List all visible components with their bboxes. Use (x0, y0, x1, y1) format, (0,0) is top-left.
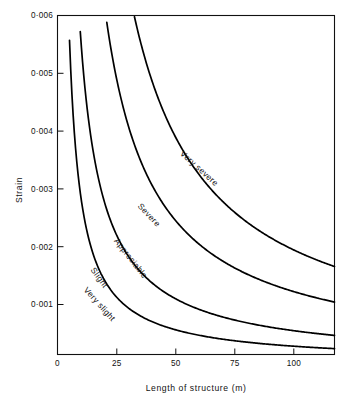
x-tick-label: 100 (287, 359, 302, 368)
x-tick-label: 50 (171, 359, 181, 368)
curve-slight (80, 32, 334, 336)
x-tick-label: 0 (55, 359, 60, 368)
y-axis-tick-labels: 0·006 0·005 0·004 0·003 0·002 0·001 (31, 11, 53, 309)
data-curves (70, 17, 335, 349)
curve-label-very-severe: Very severe (178, 148, 220, 188)
x-axis-title: Length of structure (m) (146, 383, 247, 393)
x-axis-ticks (58, 349, 294, 355)
y-axis-ticks (58, 16, 64, 305)
curve-very-slight (70, 40, 335, 348)
y-axis-title: Strain (14, 177, 24, 203)
x-tick-label: 75 (230, 359, 240, 368)
curve-label-severe: Severe (136, 201, 163, 229)
curve-label-very-slight: Very slight (82, 285, 118, 324)
x-axis-tick-labels: 0 25 50 75 100 (55, 359, 301, 368)
x-tick-label: 25 (112, 359, 122, 368)
y-tick-label: 0·002 (31, 243, 53, 252)
y-tick-label: 0·004 (31, 127, 53, 136)
y-tick-label: 0·006 (31, 11, 53, 20)
curve-appreciable (107, 22, 335, 302)
strain-vs-length-chart: 0·006 0·005 0·004 0·003 0·002 0·001 0 25… (0, 0, 348, 399)
curve-label-group: Very severeSevereAppreciableSlightVery s… (82, 148, 221, 323)
curve-label-appreciable: Appreciable (112, 236, 149, 280)
y-tick-label: 0·001 (31, 300, 53, 309)
y-tick-label: 0·003 (31, 185, 53, 194)
y-tick-label: 0·005 (31, 69, 53, 78)
chart-figure: 0·006 0·005 0·004 0·003 0·002 0·001 0 25… (0, 0, 348, 399)
curve-severe (134, 17, 334, 267)
